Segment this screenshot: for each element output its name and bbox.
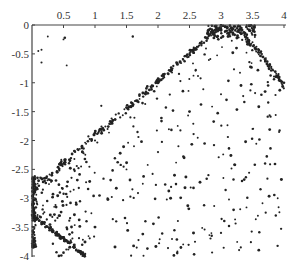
data-point [234, 218, 236, 220]
data-point [241, 32, 243, 34]
data-point [248, 61, 250, 63]
data-point [183, 55, 185, 57]
data-point [269, 63, 271, 65]
data-point [96, 141, 98, 143]
data-point [129, 179, 132, 182]
data-point [255, 218, 257, 220]
data-point [200, 44, 202, 46]
data-point [216, 54, 218, 56]
data-point [156, 129, 158, 131]
data-point [243, 178, 246, 181]
data-point [200, 103, 203, 106]
data-point [274, 94, 276, 96]
data-point [283, 87, 285, 89]
data-point [71, 153, 74, 156]
data-point [42, 181, 45, 184]
data-point [40, 61, 42, 63]
data-point [267, 84, 270, 87]
data-point [132, 244, 135, 247]
data-point [68, 220, 70, 222]
data-point [107, 125, 110, 128]
data-point [49, 214, 52, 217]
data-point [192, 123, 194, 125]
data-point [204, 36, 207, 39]
data-point [78, 218, 81, 221]
data-point [147, 164, 149, 166]
data-point [205, 178, 208, 181]
data-point [222, 177, 224, 179]
data-point [98, 194, 101, 197]
data-point [126, 222, 128, 224]
data-point [251, 230, 253, 232]
data-point [73, 158, 75, 160]
data-point [68, 246, 71, 249]
data-point [71, 231, 73, 233]
data-point [87, 140, 90, 143]
data-point [249, 29, 252, 32]
data-point [78, 173, 81, 176]
data-point [250, 83, 253, 86]
data-point [37, 214, 39, 216]
data-point [249, 89, 251, 91]
data-point [53, 206, 55, 208]
data-point [167, 190, 170, 193]
data-point [209, 58, 211, 60]
data-point [92, 195, 95, 198]
data-point [203, 53, 205, 55]
data-point [126, 104, 129, 107]
data-point [260, 60, 262, 62]
data-point [111, 196, 113, 198]
data-point [34, 178, 36, 180]
data-point [85, 220, 87, 222]
data-point [100, 132, 103, 135]
data-point [160, 78, 163, 81]
data-point [61, 200, 64, 203]
data-point [157, 216, 160, 219]
data-point [115, 114, 117, 116]
data-point [277, 74, 280, 77]
data-point [220, 93, 222, 95]
y-tick-label: -3.5 [12, 221, 30, 233]
data-point [35, 194, 37, 196]
data-point [90, 212, 92, 214]
data-point [37, 183, 39, 185]
data-point [249, 44, 251, 46]
data-point [251, 41, 253, 43]
data-point [205, 48, 207, 50]
data-point [132, 104, 134, 106]
data-point [254, 92, 256, 94]
data-point [65, 193, 68, 196]
data-point [38, 184, 41, 187]
data-point [188, 78, 190, 80]
data-point [63, 236, 65, 238]
data-point [176, 238, 179, 241]
data-point [258, 138, 261, 141]
data-point [141, 233, 144, 236]
data-point [144, 103, 146, 105]
data-point [239, 28, 241, 30]
data-point [87, 135, 89, 137]
data-point [56, 170, 58, 172]
data-point [227, 136, 229, 138]
data-point [76, 165, 78, 167]
data-point [34, 224, 36, 226]
data-point [55, 179, 58, 182]
axes: 0.511.522.533.540-0.5-1-1.5-2-2.5-3-3.5-… [12, 9, 288, 262]
data-point [203, 142, 206, 145]
data-point [232, 178, 234, 180]
data-point [280, 178, 283, 181]
data-point [192, 50, 194, 52]
data-point [187, 244, 189, 246]
data-point [82, 253, 84, 255]
data-point [218, 156, 220, 158]
data-point [177, 220, 179, 222]
data-point [246, 206, 248, 208]
data-point [51, 216, 53, 218]
data-point [171, 238, 173, 240]
data-point [220, 218, 222, 220]
data-point [228, 199, 230, 201]
data-point [144, 93, 147, 96]
data-point [130, 105, 132, 107]
data-point [38, 219, 41, 222]
data-point [235, 108, 238, 111]
